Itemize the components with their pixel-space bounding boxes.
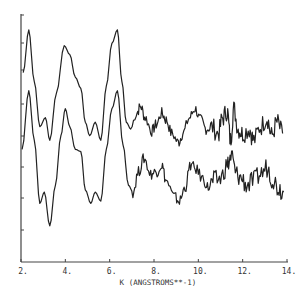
plot-area: [22, 30, 284, 226]
exafs-chart: 2.4.6.8.10.12.14. K (ANGSTROMS**-1): [0, 0, 306, 298]
x-tick-label: 12.: [237, 267, 251, 276]
x-tick-label: 14.: [282, 267, 296, 276]
x-tick-label: 10.: [193, 267, 207, 276]
x-tick-label: 2.: [18, 267, 28, 276]
x-axis-label: K (ANGSTROMS**-1): [120, 278, 197, 287]
lower-curve: [22, 91, 284, 226]
x-tick-label: 8.: [151, 267, 161, 276]
x-axis: 2.4.6.8.10.12.14.: [18, 259, 296, 276]
x-tick-label: 4.: [63, 267, 73, 276]
x-tick-label: 6.: [107, 267, 117, 276]
